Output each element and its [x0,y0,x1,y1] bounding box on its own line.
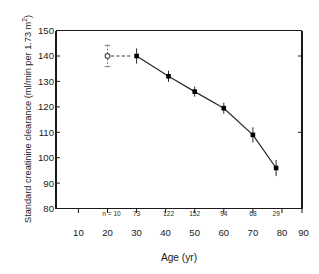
data-line [137,56,277,168]
data-markers [134,54,278,171]
x-tick-marks [78,209,302,214]
data-point-60 [222,106,227,111]
open-circle-marker [105,54,110,59]
data-point-78 [274,166,279,171]
data-point-70 [251,133,256,138]
data-point-50 [192,89,197,94]
data-point-30 [134,54,139,59]
plot-area [0,0,319,274]
error-bars [137,48,277,176]
chart-figure: Standard creatinine clearance (ml/min pe… [0,0,319,274]
y-tick-marks [56,31,60,209]
data-point-41 [166,74,171,79]
right-tick-marks [298,56,302,132]
